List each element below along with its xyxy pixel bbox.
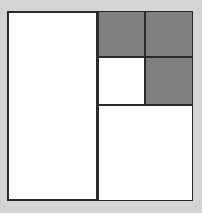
bottom-right-white-rectangle	[98, 105, 193, 201]
top-right-gray-square	[145, 11, 193, 57]
top-left-gray-square	[98, 11, 145, 57]
middle-white-square	[98, 57, 145, 105]
figure-canvas	[0, 0, 202, 213]
left-tall-rectangle	[7, 11, 98, 201]
middle-right-gray-square	[145, 57, 193, 105]
